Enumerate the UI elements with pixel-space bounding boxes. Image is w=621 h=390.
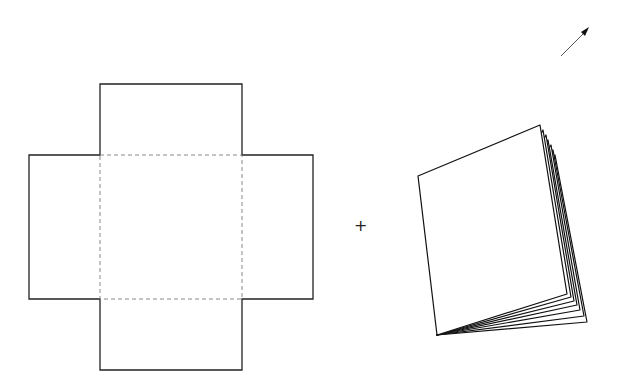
- net-outline: [29, 84, 313, 370]
- box-net: [29, 84, 313, 370]
- arrow-icon: [561, 27, 589, 56]
- plus-operator: +: [354, 218, 367, 234]
- diagram-canvas: [0, 0, 621, 390]
- fold-lines: [100, 155, 242, 299]
- booklet: [418, 125, 587, 335]
